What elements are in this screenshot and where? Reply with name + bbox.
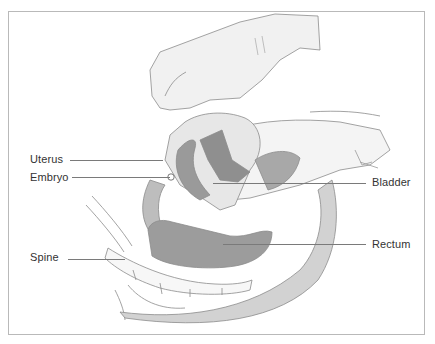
label-embryo: Embryo bbox=[30, 171, 69, 183]
rectum-leader-line bbox=[223, 244, 366, 245]
embryo-leader-line bbox=[72, 177, 170, 178]
bladder-leader-line bbox=[213, 183, 366, 184]
label-rectum: Rectum bbox=[372, 238, 411, 250]
upper-hand bbox=[150, 14, 320, 110]
spine-leader-line bbox=[68, 259, 125, 260]
label-spine: Spine bbox=[30, 251, 59, 263]
uterus-leader-line bbox=[70, 160, 163, 161]
label-uterus: Uterus bbox=[30, 153, 63, 165]
label-bladder: Bladder bbox=[372, 176, 411, 188]
